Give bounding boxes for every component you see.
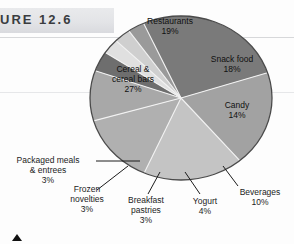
slice-label-frozen-novelties-line1: Frozen bbox=[74, 184, 100, 194]
slice-label-packaged-meals-line1: Packaged meals bbox=[17, 155, 80, 165]
slice-label-cereal-bars-line1: Cereal & bbox=[116, 64, 149, 74]
slice-label-packaged-meals-line2: & entrees bbox=[0, 165, 96, 175]
slice-label-yogurt: Yogurt 4% bbox=[183, 196, 227, 216]
slice-label-snack-food: Snack food 18% bbox=[196, 54, 268, 74]
slice-label-frozen-novelties-line2: novelties bbox=[57, 194, 117, 204]
slice-label-cereal-bars: Cereal & cereal bars 27% bbox=[93, 64, 173, 94]
slice-label-candy-pct: 14% bbox=[210, 110, 264, 120]
leader-beverages bbox=[223, 166, 238, 186]
slice-label-frozen-novelties: Frozen novelties 3% bbox=[57, 184, 117, 214]
slice-label-beverages-pct: 10% bbox=[227, 197, 293, 207]
slice-label-beverages-name: Beverages bbox=[240, 187, 281, 197]
slice-label-yogurt-pct: 4% bbox=[183, 206, 227, 216]
slice-label-breakfast-pastries-line1: Breakfast bbox=[128, 195, 164, 205]
slice-label-restaurants-name: Restaurants bbox=[147, 16, 193, 26]
slice-label-cereal-bars-line2: cereal bars bbox=[93, 74, 173, 84]
slice-label-breakfast-pastries-line2: pastries bbox=[113, 205, 179, 215]
slice-label-snack-food-name: Snack food bbox=[211, 54, 254, 64]
slice-label-packaged-meals: Packaged meals & entrees 3% bbox=[0, 155, 96, 185]
slice-label-restaurants: Restaurants 19% bbox=[129, 16, 211, 36]
slice-label-breakfast-pastries: Breakfast pastries 3% bbox=[113, 195, 179, 225]
up-triangle-marker-icon bbox=[12, 234, 22, 241]
slice-label-snack-food-pct: 18% bbox=[196, 64, 268, 74]
slice-label-candy: Candy 14% bbox=[210, 100, 264, 120]
figure-panel: URE 12.6 Restaurants 19% Snack food 18% bbox=[0, 0, 294, 244]
slice-label-candy-name: Candy bbox=[225, 100, 250, 110]
slice-label-breakfast-pastries-pct: 3% bbox=[113, 215, 179, 225]
slice-label-beverages: Beverages 10% bbox=[227, 187, 293, 207]
slice-label-restaurants-pct: 19% bbox=[129, 26, 211, 36]
slice-label-cereal-bars-pct: 27% bbox=[93, 84, 173, 94]
slice-label-yogurt-name: Yogurt bbox=[193, 196, 217, 206]
slice-label-frozen-novelties-pct: 3% bbox=[57, 204, 117, 214]
